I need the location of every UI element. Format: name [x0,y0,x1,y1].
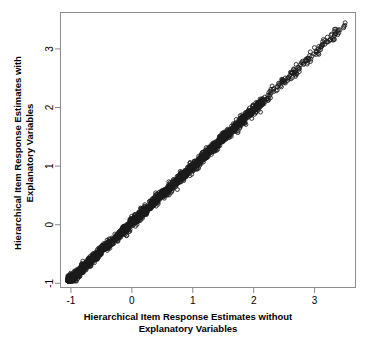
y-axis-ticks: -10123 [45,46,61,288]
x-tick-label: 2 [251,295,257,306]
x-axis-ticks: -10123 [67,288,318,306]
y-tick-label: 2 [45,104,56,110]
scatter-plot-figure: -10123 -10123 Hierarchical Item Response… [0,0,369,346]
data-points [66,21,347,283]
x-axis-title: Hierarchical Item Response Estimates wit… [48,311,328,334]
y-tick-label: -1 [45,278,56,287]
y-axis-title-container: Hierarchical Item Response Estimates wit… [12,15,38,291]
x-tick-label: 1 [190,295,196,306]
plot-canvas: -10123 -10123 [0,0,369,346]
x-tick-label: 0 [129,295,135,306]
y-tick-label: 0 [45,221,56,227]
x-tick-label: 3 [312,295,318,306]
y-axis-title: Hierarchical Item Response Estimates wit… [12,15,35,291]
y-tick-label: 1 [45,163,56,169]
y-tick-label: 3 [45,46,56,52]
x-tick-label: -1 [67,295,76,306]
data-point [308,50,312,54]
